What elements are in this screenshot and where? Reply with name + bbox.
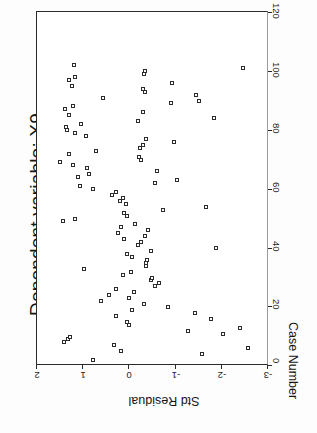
scatter-point [170,81,174,85]
y-ticklabel-m3: -3 [260,370,276,381]
x-ticklabel-0: 0 [271,358,282,363]
scatter-point [132,290,136,294]
scatter-point [107,293,111,297]
scatter-point [142,302,146,306]
scatter-point [139,240,143,244]
scatter-point [212,116,216,120]
scatter-point [64,125,68,129]
scatter-point [157,281,161,285]
scatter-point [91,187,95,191]
scatter-point [122,237,126,241]
scatter-point [186,329,190,333]
x-ticklabel-80: 80 [271,123,282,134]
scatter-point [149,249,153,253]
scatter-point [246,346,250,350]
y-ticklabel-1: 1 [76,370,90,381]
scatter-point [137,155,141,159]
scatter-point [101,96,105,100]
scatter-point [73,217,77,221]
scatter-point [119,225,123,229]
scatter-point [116,231,120,235]
scatter-point [70,84,74,88]
scatter-point [150,276,154,280]
scatter-point [67,113,71,117]
scatter-point [125,252,129,256]
scatter-point [78,184,82,188]
scatter-point [193,311,197,315]
scatter-point [172,140,176,144]
scatter-point [155,169,159,173]
scatter-point [67,78,71,82]
scatter-point [143,234,147,238]
y-ticklabel-0: 0 [122,370,136,381]
scatter-point [238,326,242,330]
y-tick-1 [82,365,83,369]
scatter-point [204,205,208,209]
y-ticklabel-m2: -2 [214,370,230,381]
scatter-point [130,308,134,312]
scatter-point [125,320,129,324]
scatter-point [114,287,118,291]
scatter-point [197,99,201,103]
scatter-point [121,273,125,277]
y-ticklabel-m1: -1 [168,370,184,381]
scatter-point [153,181,157,185]
scatter-point [67,152,71,156]
scatter-point [76,175,80,179]
y-tick-0 [128,365,129,369]
scatter-point [175,178,179,182]
scatter-point [166,305,170,309]
scatter-point [58,160,62,164]
y-tick-2 [36,365,37,369]
scatter-point [169,101,173,105]
scatter-point [61,219,65,223]
scatter-point [68,335,72,339]
scatter-point [84,134,88,138]
scatter-point [71,104,75,108]
y-axis-title: Std Residual [118,394,210,408]
scatter-point [71,163,75,167]
x-axis-title: Case Number [286,322,300,399]
scatter-point [143,69,147,73]
y-ticklabel-2: 2 [30,370,44,381]
scatter-point [73,131,77,135]
scatter-point [87,172,91,176]
scatter-point [99,299,103,303]
y-tick-m2 [221,365,222,369]
scatter-point [221,332,225,336]
scatter-point [91,358,95,362]
x-ticklabel-120: 120 [271,3,282,19]
scatter-point [124,202,128,206]
scatter-point [112,343,116,347]
x-ticklabel-20: 20 [271,299,282,310]
scatter-point [127,296,131,300]
scatter-point [85,166,89,170]
scatter-point [241,66,245,70]
scatter-point [122,211,126,215]
x-ticklabel-40: 40 [271,241,282,252]
scatter-point [146,228,150,232]
scatter-point [133,222,137,226]
scatter-point [72,63,76,67]
scatter-point [114,190,118,194]
scatter-point [141,110,145,114]
scatter-point [141,143,145,147]
scatter-point [129,270,133,274]
scatter-point [130,255,134,259]
scatter-point [94,149,98,153]
scatter-point [79,122,83,126]
y-tick-m1 [175,365,176,369]
scatter-point [209,317,213,321]
scatter-point [194,93,198,97]
plot-area [36,11,268,365]
scatter-point [144,137,148,141]
scatter-point [141,87,145,91]
scatter-point [145,258,149,262]
scatter-point [200,352,204,356]
scatter-point [114,314,118,318]
chart-canvas: Dependent variable: X9 2 1 0 -1 -2 -3 St… [0,0,317,433]
x-ticklabel-60: 60 [271,182,282,193]
scatter-point [136,119,140,123]
scatter-point [161,208,165,212]
scatter-point [119,349,123,353]
